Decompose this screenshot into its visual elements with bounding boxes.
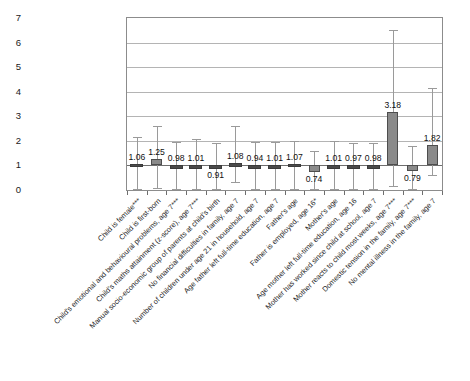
odds-ratio-chart: 01234567 1.061.250.981.010.911.080.941.0…	[0, 0, 470, 381]
category-labels: Child is female***Child is first-bornChi…	[0, 0, 470, 381]
